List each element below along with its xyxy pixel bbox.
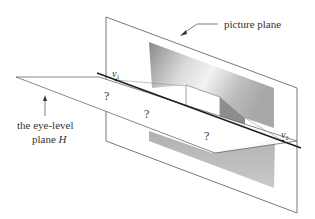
question-mark-1: ? xyxy=(104,89,109,103)
vanishing-point-v2 xyxy=(282,140,284,142)
eye-level-arrowhead-icon xyxy=(43,95,47,101)
diagram-canvas: v1 v2 ? ? ? picture plane the eye-level … xyxy=(0,0,315,219)
question-mark-3: ? xyxy=(204,129,209,143)
eye-level-label-line1: the eye-level xyxy=(17,119,74,131)
eye-level-label-line2: plane H xyxy=(32,133,68,145)
picture-plane-label: picture plane xyxy=(224,18,281,30)
picture-plane-arrowhead-icon xyxy=(180,30,187,36)
question-mark-2: ? xyxy=(144,107,149,121)
picture-plane-pointer xyxy=(184,24,218,33)
